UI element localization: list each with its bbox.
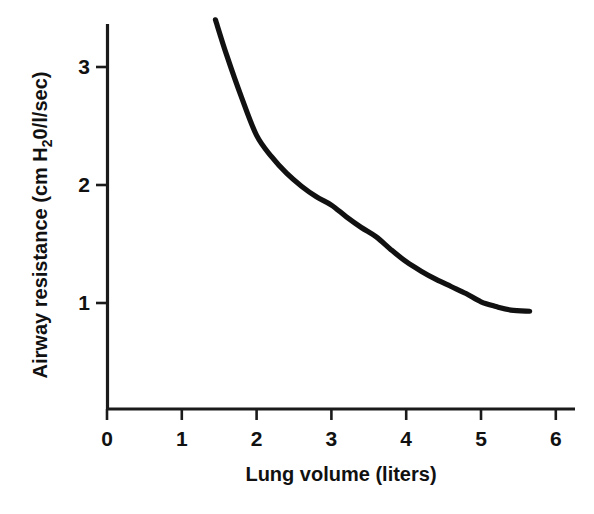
x-tick-label-4: 4 [400,427,412,450]
y-axis-title-subscript: 2 [39,139,55,147]
x-tick-labels: 0123456 [101,427,561,450]
x-axis-title: Lung volume (liters) [245,463,436,485]
x-tick-label-2: 2 [251,427,263,450]
y-axis-title: Airway resistance (cm H20/l/sec) [29,72,55,379]
y-tick-marks [96,67,107,303]
figure-container: 123 0123456 Lung volume (liters) Airway … [0,0,594,514]
y-axis-title-prefix: Airway resistance (cm H [29,147,51,378]
y-tick-label-3: 3 [78,55,90,78]
data-curve-airway-resistance [215,20,529,311]
x-tick-label-6: 6 [550,427,562,450]
y-axis-title-suffix: 0/l/sec) [29,72,51,140]
y-tick-label-1: 1 [78,291,90,314]
y-tick-label-2: 2 [78,173,90,196]
x-tick-label-0: 0 [101,427,113,450]
airway-resistance-chart: 123 0123456 Lung volume (liters) Airway … [0,0,594,514]
x-tick-label-1: 1 [176,427,188,450]
x-tick-marks [107,409,556,420]
x-tick-label-3: 3 [326,427,338,450]
x-tick-label-5: 5 [475,427,487,450]
y-tick-labels: 123 [78,55,90,314]
